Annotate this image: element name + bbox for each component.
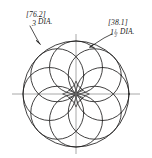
technical-drawing-canvas: [76.2] 3 DIA. [38.1] 1 1 2 DIA.	[0, 0, 152, 158]
petal-dimension-annotation: [38.1] 1 1 2 DIA.	[108, 18, 135, 38]
outer-dimension-suffix: DIA.	[37, 17, 53, 26]
petal-dimension-imperial: 1	[110, 28, 114, 37]
outer-dimension-annotation: [76.2] 3 DIA.	[26, 10, 53, 28]
petal-dimension-fraction-denominator: 2	[115, 33, 118, 38]
petal-dimension-leader-group	[90, 34, 112, 47]
drawing-sheet: [76.2] 3 DIA. [38.1] 1 1 2 DIA.	[0, 0, 152, 158]
petal-dimension-suffix: DIA.	[119, 27, 135, 36]
outer-dimension-leader-group	[30, 26, 40, 44]
petal-dimension-fraction-numerator: 1	[115, 28, 117, 33]
outer-dimension-leader	[30, 26, 40, 44]
outer-dimension-imperial: 3	[31, 19, 36, 28]
petal-dimension-metric: [38.1]	[108, 18, 128, 27]
